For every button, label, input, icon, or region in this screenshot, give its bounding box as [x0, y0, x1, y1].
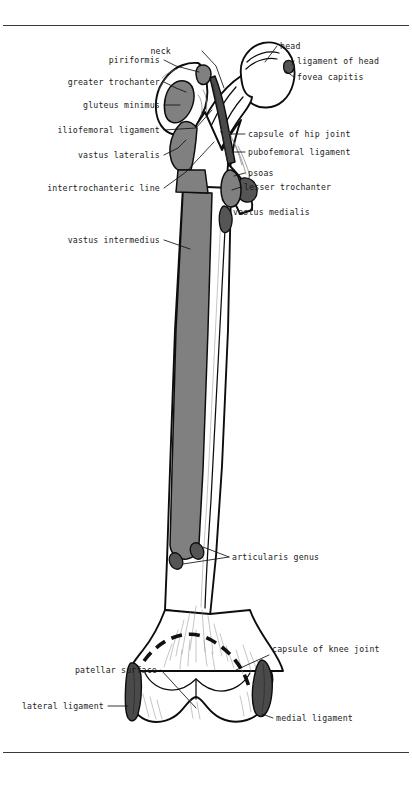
- label-patellar-surface: patellar surface: [75, 665, 157, 675]
- label-lateral-ligament: lateral ligament: [22, 701, 104, 711]
- label-neck: neck: [150, 46, 171, 56]
- label-iliofemoral-ligament: iliofemoral ligament: [57, 125, 160, 135]
- label-ligament-of-head: ligament of head: [297, 56, 379, 66]
- label-group-pubofemoral-ligament: pubofemoral ligament: [232, 147, 351, 157]
- label-vastus-intermedius: vastus intermedius: [68, 235, 160, 245]
- label-gluteus-minimus: gluteus minimus: [83, 100, 160, 110]
- label-vastus-medialis: vastus medialis: [233, 207, 310, 217]
- label-pubofemoral-ligament: pubofemoral ligament: [248, 147, 351, 157]
- label-psoas: psoas: [248, 168, 274, 178]
- femur-diagram-svg: piriformis greater trochanter gluteus mi…: [0, 0, 412, 787]
- label-greater-trochanter: greater trochanter: [68, 77, 160, 87]
- label-piriformis: piriformis: [109, 55, 160, 65]
- fovea-capitis: [284, 60, 295, 73]
- label-group-medial-ligament: medial ligament: [262, 713, 353, 723]
- label-capsule-of-knee-joint: capsule of knee joint: [272, 644, 380, 654]
- label-vastus-lateralis: vastus lateralis: [78, 150, 160, 160]
- label-group-ligament-of-head: ligament of head: [292, 56, 379, 66]
- piriformis-attachment: [196, 65, 211, 84]
- label-group-capsule-of-hip-joint: capsule of hip joint: [230, 129, 351, 139]
- label-group-lesser-trochanter: lesser trochanter: [232, 182, 331, 192]
- label-intertrochanteric-line: intertrochanteric line: [47, 183, 160, 193]
- label-capsule-of-hip-joint: capsule of hip joint: [248, 129, 351, 139]
- label-lesser-trochanter: lesser trochanter: [244, 182, 331, 192]
- vastus-lateralis-extension: [176, 170, 208, 193]
- label-fovea-capitis: fovea capitis: [297, 72, 364, 82]
- lesser-trochanter: [221, 170, 241, 207]
- label-articularis-genus: articularis genus: [232, 552, 319, 562]
- label-medial-ligament: medial ligament: [276, 713, 353, 723]
- label-head: head: [280, 41, 301, 51]
- femur-anatomy-figure: piriformis greater trochanter gluteus mi…: [0, 0, 412, 787]
